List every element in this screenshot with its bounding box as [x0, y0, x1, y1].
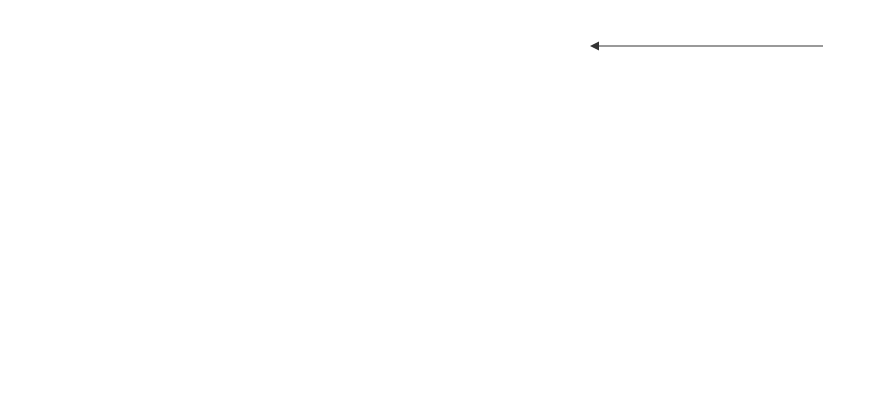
similarity-annotation [590, 42, 823, 51]
arrow-left-icon [590, 42, 599, 51]
dendrogram-heatmap-figure [0, 0, 896, 418]
